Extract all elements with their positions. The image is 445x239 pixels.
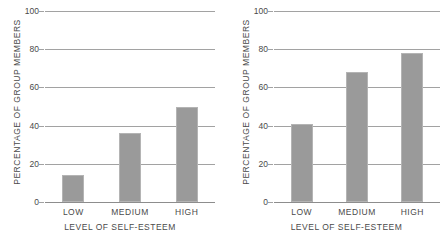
bar — [176, 107, 198, 203]
y-axis-tick-label: 0 — [34, 197, 39, 207]
bar — [401, 53, 423, 202]
x-axis-baseline — [45, 202, 215, 203]
x-axis-category-label: MEDIUM — [338, 207, 375, 217]
y-axis-tick-label: 100 — [254, 6, 268, 16]
y-axis-tick-label: 0 — [263, 197, 268, 207]
y-axis-tick-mark — [268, 49, 273, 50]
chart-panel-left: PERCENTAGE OF GROUP MEMBERS 020406080100… — [0, 0, 222, 239]
bar-series — [274, 11, 440, 202]
y-axis-tick-label: 20 — [259, 159, 268, 169]
x-axis-category-label: LOW — [291, 207, 312, 217]
bar-series — [45, 11, 215, 202]
x-axis-category-label: HIGH — [401, 207, 424, 217]
y-axis-tick-mark — [268, 202, 273, 203]
y-axis-tick-mark — [268, 11, 273, 12]
y-axis-tick-label: 40 — [30, 121, 39, 131]
y-axis-tick-mark — [268, 126, 273, 127]
y-axis-tick-mark — [39, 126, 44, 127]
x-axis-category-label: MEDIUM — [111, 207, 148, 217]
plot-area-left: 020406080100LOWMEDIUMHIGH — [45, 11, 215, 202]
y-axis-tick-mark — [39, 87, 44, 88]
y-axis-tick-mark — [39, 164, 44, 165]
y-axis-tick-mark — [268, 87, 273, 88]
bar-chart-figure: PERCENTAGE OF GROUP MEMBERS 020406080100… — [0, 0, 445, 239]
y-axis-title: PERCENTAGE OF GROUP MEMBERS — [12, 12, 22, 192]
bar — [346, 72, 368, 202]
y-axis-tick-label: 60 — [30, 82, 39, 92]
y-axis-tick-label: 100 — [25, 6, 39, 16]
plot-area-right: 020406080100LOWMEDIUMHIGH — [274, 11, 440, 202]
x-axis-category-label: HIGH — [175, 207, 198, 217]
x-axis-title: LEVEL OF SELF-ESTEEM — [0, 222, 222, 232]
y-axis-tick-mark — [39, 11, 44, 12]
bar — [291, 124, 313, 202]
x-axis-title: LEVEL OF SELF-ESTEEM — [222, 222, 445, 232]
y-axis-tick-mark — [268, 164, 273, 165]
y-axis-tick-label: 80 — [259, 44, 268, 54]
y-axis-tick-label: 60 — [259, 82, 268, 92]
chart-panel-right: PERCENTAGE OF GROUP MEMBERS 020406080100… — [222, 0, 445, 239]
y-axis-title: PERCENTAGE OF GROUP MEMBERS — [241, 12, 251, 192]
x-axis-baseline — [274, 202, 440, 203]
x-axis-category-label: LOW — [63, 207, 84, 217]
y-axis-tick-mark — [39, 202, 44, 203]
bar — [62, 175, 84, 202]
y-axis-tick-label: 80 — [30, 44, 39, 54]
bar — [119, 133, 141, 202]
y-axis-tick-mark — [39, 49, 44, 50]
y-axis-tick-label: 20 — [30, 159, 39, 169]
y-axis-tick-label: 40 — [259, 121, 268, 131]
